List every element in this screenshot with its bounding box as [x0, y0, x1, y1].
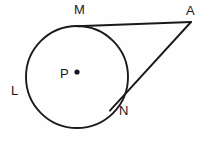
circle-shape — [26, 26, 128, 128]
tangent-line-a-to-n — [110, 22, 191, 111]
label-point-n: N — [119, 104, 128, 117]
geometry-figure: M A L P N — [0, 0, 211, 143]
label-point-a: A — [186, 4, 195, 17]
label-point-m: M — [74, 3, 85, 16]
label-point-p: P — [60, 67, 69, 80]
tangent-line-m-to-a — [77, 22, 191, 26]
center-point-dot — [74, 69, 79, 74]
geometry-canvas — [0, 0, 211, 143]
label-point-l: L — [11, 84, 18, 97]
